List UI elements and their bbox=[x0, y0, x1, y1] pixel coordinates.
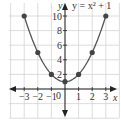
data-point bbox=[35, 50, 40, 55]
data-point bbox=[90, 50, 95, 55]
x-axis-left-arrow-icon bbox=[9, 86, 16, 92]
y-tick-label: 2 bbox=[57, 69, 62, 80]
y-tick-label: 10 bbox=[52, 11, 62, 22]
data-point bbox=[62, 79, 67, 84]
y-axis-label: y bbox=[57, 0, 63, 11]
y-tick-label: 8 bbox=[57, 25, 62, 36]
y-tick-label: 4 bbox=[57, 54, 62, 65]
y-axis-down-arrow-icon bbox=[62, 110, 68, 117]
data-point bbox=[49, 72, 54, 77]
x-axis-label: x bbox=[112, 92, 118, 103]
parabola-chart: −3−2−11230246810 x y y = x² + 1 bbox=[0, 0, 121, 121]
equation-annotation: y = x² + 1 bbox=[72, 0, 111, 11]
x-tick-label: −2 bbox=[32, 91, 43, 102]
data-point bbox=[22, 13, 27, 18]
y-tick-label: 6 bbox=[57, 40, 62, 51]
origin-label: 0 bbox=[56, 90, 61, 101]
x-tick-label: 2 bbox=[90, 91, 95, 102]
x-tick-label: 1 bbox=[76, 91, 81, 102]
x-tick-label: −3 bbox=[19, 91, 30, 102]
x-tick-label: 3 bbox=[103, 91, 108, 102]
y-axis-up-arrow-icon bbox=[62, 3, 68, 10]
data-point bbox=[76, 72, 81, 77]
tick-labels: −3−2−11230246810 bbox=[19, 11, 108, 103]
data-point bbox=[103, 13, 108, 18]
